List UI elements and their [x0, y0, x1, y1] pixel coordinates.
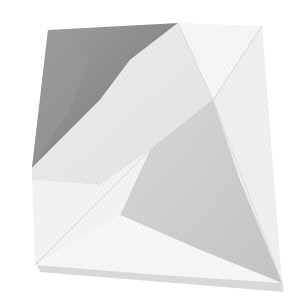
- folded-paper-photo: [0, 0, 305, 301]
- paper-texture: [32, 23, 282, 283]
- folded-paper-illustration: [0, 0, 305, 301]
